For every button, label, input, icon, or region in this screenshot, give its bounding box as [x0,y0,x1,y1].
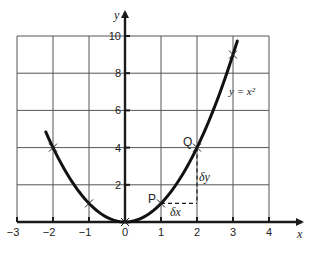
x-tick-label: 2 [194,226,200,238]
y-tick-label: 6 [115,104,121,116]
x-tick-label: −3 [7,226,20,238]
delta-x-label: δx [170,205,182,219]
x-tick-label: −2 [43,226,56,238]
graph-canvas: −3 −2 −1 0 1 2 3 4 2 4 6 8 10 x y P Q δx… [0,0,311,264]
x-tick-label: 4 [266,226,272,238]
x-tick-label: −1 [79,226,92,238]
x-axis-label: x [296,227,303,241]
parabola-figure: −3 −2 −1 0 1 2 3 4 2 4 6 8 10 x y P Q δx… [0,0,311,264]
curve-label: y = x² [228,85,256,97]
parabola-path [46,41,238,222]
y-tick-label: 2 [115,179,121,191]
point-markers [49,51,237,226]
y-tick-label: 10 [109,30,121,42]
x-tick-labels: −3 −2 −1 0 1 2 3 4 [7,226,272,238]
point-p-label: P [148,192,156,206]
x-tick-label: 0 [122,226,128,238]
x-tick-label: 1 [158,226,164,238]
y-tick-label: 4 [115,142,121,154]
point-q-label: Q [183,135,192,149]
delta-y-label: δy [199,170,211,184]
y-axis-label: y [113,8,120,22]
y-tick-label: 8 [115,67,121,79]
x-tick-label: 3 [230,226,236,238]
